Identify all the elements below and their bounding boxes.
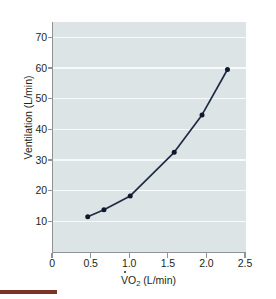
- ventilation-vo2-chart-figure: Ventilation (L/min) 10203040506070 00.51…: [0, 0, 276, 299]
- x-axis-title-units: (L/min): [140, 274, 176, 286]
- accent-bar: [0, 290, 57, 294]
- x-axis-tick-label: 0.5: [71, 258, 111, 269]
- x-axis-tick-label: 1.0: [109, 258, 149, 269]
- y-axis-tick-label: 70: [21, 32, 47, 43]
- x-axis-tick-label: 2.0: [186, 258, 226, 269]
- data-point-marker: [200, 112, 205, 117]
- data-point-marker: [85, 214, 90, 219]
- overdot-icon: [124, 271, 126, 273]
- y-axis-tick-labels: 10203040506070: [20, 22, 47, 252]
- x-axis-tick-labels: 00.51.01.52.02.5: [52, 258, 245, 272]
- data-series-line: [53, 22, 246, 252]
- y-axis-tick-label: 60: [21, 63, 47, 74]
- x-axis-title-v: V: [121, 274, 128, 286]
- data-point-marker: [172, 150, 177, 155]
- x-axis-title-o: O: [128, 274, 136, 286]
- plot-area: [52, 22, 246, 253]
- y-axis-tick-label: 40: [21, 124, 47, 135]
- x-axis-tick-label: 0: [32, 258, 72, 269]
- x-axis-title-subscript: 2: [136, 279, 140, 288]
- v-dot-symbol: V: [121, 274, 128, 286]
- y-axis-tick-label: 20: [21, 185, 47, 196]
- y-axis-tick-label: 50: [21, 93, 47, 104]
- data-point-marker: [101, 207, 106, 212]
- y-axis-tick-label: 30: [21, 155, 47, 166]
- data-point-marker: [225, 67, 230, 72]
- data-point-marker: [128, 193, 133, 198]
- x-axis-tick-label: 1.5: [148, 258, 188, 269]
- x-axis-title: VO2 (L/min): [52, 274, 245, 288]
- x-axis-tick-label: 2.5: [225, 258, 265, 269]
- series-line: [88, 70, 228, 217]
- y-axis-tick-label: 10: [21, 216, 47, 227]
